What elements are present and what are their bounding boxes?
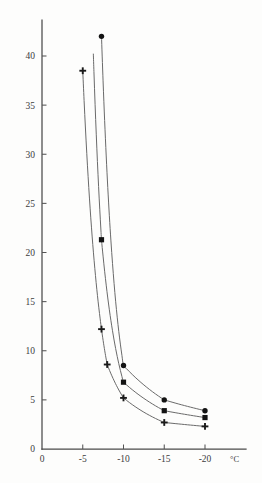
- y-tick-label-10: 10: [26, 346, 36, 356]
- x-axis-unit-label: °C: [230, 454, 239, 464]
- data-point-circle-2-0: [99, 34, 104, 39]
- x-tick-label--20: -20: [199, 454, 212, 464]
- data-point-plus-0-2: [104, 361, 111, 368]
- plot-area: 0510152025303540 0-5-10-15-20 °C: [0, 0, 262, 483]
- data-point-plus-0-5: [202, 423, 209, 430]
- data-point-plus-0-0: [79, 67, 86, 74]
- x-tick-marks: [83, 445, 205, 450]
- data-point-square-1-0: [99, 237, 104, 242]
- data-point-circle-2-1: [121, 363, 126, 368]
- curve-middle-curve: [93, 54, 205, 418]
- y-tick-label-0: 0: [30, 444, 35, 454]
- y-tick-label-20: 20: [26, 248, 36, 258]
- y-tick-label-40: 40: [26, 51, 36, 61]
- y-tick-label-15: 15: [26, 297, 36, 307]
- data-point-square-1-3: [202, 415, 207, 420]
- y-tick-label-25: 25: [26, 199, 36, 209]
- data-point-circle-2-2: [162, 397, 167, 402]
- x-tick-labels: 0-5-10-15-20: [40, 454, 212, 464]
- data-point-plus-0-1: [98, 326, 105, 333]
- y-tick-label-35: 35: [26, 101, 36, 111]
- curves-group: [83, 36, 205, 426]
- x-tick-label--15: -15: [158, 454, 171, 464]
- chart-figure: 0510152025303540 0-5-10-15-20 °C: [0, 0, 262, 483]
- curve-lower-curve: [83, 71, 205, 427]
- data-point-square-1-2: [162, 408, 167, 413]
- y-tick-marks: [42, 56, 47, 400]
- data-point-plus-0-4: [161, 419, 168, 426]
- x-tick-label--10: -10: [117, 454, 130, 464]
- y-tick-labels: 0510152025303540: [26, 51, 36, 454]
- x-tick-label-0: 0: [40, 454, 45, 464]
- y-tick-label-5: 5: [30, 395, 35, 405]
- markers-group: [79, 34, 208, 430]
- x-tick-label--5: -5: [79, 454, 87, 464]
- data-point-circle-2-3: [202, 408, 207, 413]
- y-tick-label-30: 30: [26, 150, 36, 160]
- data-point-square-1-1: [121, 380, 126, 385]
